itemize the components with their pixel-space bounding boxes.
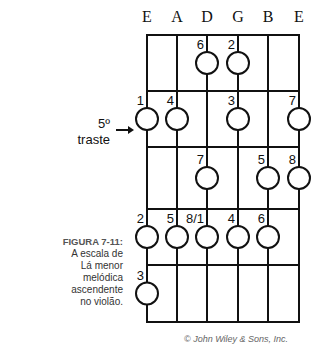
- scale-degree-label: 5: [258, 152, 265, 167]
- note-circle-icon: [166, 226, 188, 248]
- note-circle-icon: [196, 167, 218, 189]
- scale-degree-label: 1: [137, 93, 144, 108]
- note-circle-icon: [196, 226, 218, 248]
- fret-word-label: traste: [77, 132, 110, 147]
- figure-id: FIGURA 7-11:: [63, 236, 123, 248]
- note-circle-icon: [288, 167, 310, 189]
- string-label: E: [142, 8, 152, 25]
- scale-degree-label: 4: [167, 93, 174, 108]
- scale-degree-label: 8: [289, 152, 296, 167]
- right-arrow-icon: [116, 126, 134, 134]
- note-circle-icon: [257, 226, 279, 248]
- fret-number-label: 5º: [98, 116, 110, 131]
- string-label: E: [294, 8, 304, 25]
- note-circle-icon: [257, 167, 279, 189]
- scale-degree-label: 2: [137, 211, 144, 226]
- note-circle-icon: [196, 52, 218, 74]
- scale-degree-label: 8/1: [186, 211, 204, 226]
- scale-degree-label: 7: [289, 93, 296, 108]
- scale-degree-label: 2: [228, 37, 235, 52]
- fret-marker: 5º traste: [77, 116, 134, 147]
- note-circle-icon: [227, 108, 249, 130]
- note-marker: 8/1: [186, 211, 218, 248]
- note-circle-icon: [136, 108, 158, 130]
- caption-line: A escala de: [63, 248, 123, 260]
- scale-degree-label: 5: [167, 211, 174, 226]
- note-circle-icon: [166, 108, 188, 130]
- note-circle-icon: [136, 226, 158, 248]
- scale-degree-label: 6: [197, 37, 204, 52]
- scale-degree-label: 6: [258, 211, 265, 226]
- note-circle-icon: [288, 108, 310, 130]
- scale-degree-label: 7: [197, 152, 204, 167]
- string-label: G: [232, 8, 244, 25]
- caption-line: melódica: [63, 272, 123, 284]
- fretboard-diagram: EADGBE 621437758258/1463 5º traste: [0, 0, 325, 353]
- caption-line: no violão.: [63, 296, 123, 308]
- caption-line: ascendente: [63, 284, 123, 296]
- figure-caption: FIGURA 7-11: A escala de Lá menor melódi…: [63, 236, 123, 308]
- string-labels: EADGBE: [142, 8, 304, 25]
- note-circle-icon: [227, 52, 249, 74]
- string-label: A: [171, 8, 183, 25]
- string-label: D: [201, 8, 213, 25]
- note-circle-icon: [136, 283, 158, 305]
- string-label: B: [263, 8, 274, 25]
- copyright-credit: © John Wiley & Sons, Inc.: [184, 334, 288, 344]
- scale-degree-label: 4: [228, 211, 235, 226]
- caption-line: Lá menor: [63, 260, 123, 272]
- note-circle-icon: [227, 226, 249, 248]
- scale-degree-label: 3: [228, 93, 235, 108]
- scale-degree-label: 3: [137, 268, 144, 283]
